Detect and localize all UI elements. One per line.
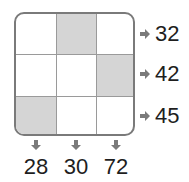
arrow-right-icon bbox=[140, 111, 150, 121]
grid-cell-r3c3[interactable] bbox=[97, 97, 133, 134]
column-clue-value: 72 bbox=[104, 156, 128, 178]
row-clue-value: 42 bbox=[155, 63, 179, 85]
row-clue-1: 32 bbox=[140, 22, 179, 46]
arrow-right-icon bbox=[140, 69, 150, 79]
arrow-right-icon bbox=[140, 29, 150, 39]
column-clue-3: 72 bbox=[101, 140, 131, 178]
grid-cell-r1c3[interactable] bbox=[97, 14, 133, 55]
arrow-down-icon bbox=[71, 140, 81, 150]
grid-cell-r3c2[interactable] bbox=[57, 97, 97, 134]
grid-cell-r2c3[interactable] bbox=[97, 55, 133, 97]
row-clue-2: 42 bbox=[140, 62, 179, 86]
column-clue-value: 28 bbox=[24, 156, 48, 178]
grid-cell-r2c2[interactable] bbox=[57, 55, 97, 97]
row-clue-value: 32 bbox=[155, 23, 179, 45]
column-clue-1: 28 bbox=[21, 140, 51, 178]
row-clue-value: 45 bbox=[155, 105, 179, 127]
puzzle-grid bbox=[14, 12, 135, 136]
grid-cell-r1c2[interactable] bbox=[57, 14, 97, 55]
column-clue-2: 30 bbox=[61, 140, 91, 178]
row-clue-3: 45 bbox=[140, 104, 179, 128]
arrow-down-icon bbox=[31, 140, 41, 150]
arrow-down-icon bbox=[111, 140, 121, 150]
grid-cell-r3c1[interactable] bbox=[16, 97, 57, 134]
grid-cell-r2c1[interactable] bbox=[16, 55, 57, 97]
column-clue-value: 30 bbox=[64, 156, 88, 178]
grid-cell-r1c1[interactable] bbox=[16, 14, 57, 55]
